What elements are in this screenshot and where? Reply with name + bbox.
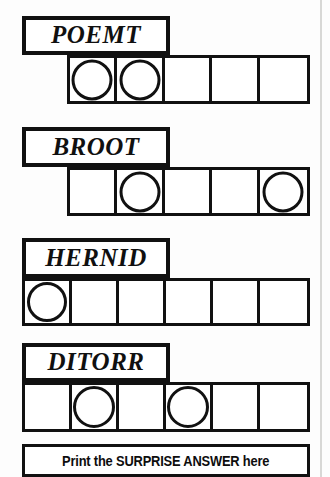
- clue-label-text: HERNID: [45, 245, 147, 270]
- surprise-answer-banner[interactable]: Print the SURPRISE ANSWER here: [22, 444, 310, 477]
- circled-cell-marker: [119, 171, 160, 212]
- clue-label: DITORR: [22, 343, 170, 382]
- answer-cell[interactable]: [213, 281, 260, 323]
- clue-label-text: POEMT: [51, 22, 141, 47]
- circled-cell-marker: [167, 386, 209, 428]
- answer-cell[interactable]: [165, 58, 212, 101]
- answer-cell[interactable]: [119, 281, 166, 323]
- answer-cell[interactable]: [70, 170, 117, 213]
- answer-cell[interactable]: [260, 281, 307, 323]
- circled-cell-marker: [263, 171, 304, 212]
- answer-cell[interactable]: [117, 58, 164, 101]
- circled-cell-marker: [72, 59, 113, 100]
- answer-grid: [22, 278, 310, 326]
- answer-cell[interactable]: [165, 170, 212, 213]
- puzzle-page: POEMTBROOTHERNIDDITORR Print the SURPRIS…: [0, 0, 330, 477]
- answer-grid: [22, 382, 310, 432]
- answer-cell[interactable]: [260, 385, 307, 429]
- answer-cell[interactable]: [72, 281, 119, 323]
- answer-cell[interactable]: [72, 385, 119, 429]
- clue-label-text: DITORR: [47, 349, 144, 374]
- clue-label-text: BROOT: [52, 134, 139, 159]
- answer-cell[interactable]: [212, 58, 259, 101]
- answer-grid: [67, 55, 310, 104]
- answer-cell[interactable]: [25, 385, 72, 429]
- answer-cell[interactable]: [260, 170, 307, 213]
- answer-grid: [67, 167, 310, 216]
- surprise-answer-banner-label: Print the SURPRISE ANSWER here: [62, 453, 269, 469]
- answer-cell[interactable]: [213, 385, 260, 429]
- circled-cell-marker: [27, 282, 67, 322]
- clue-label: POEMT: [22, 16, 170, 55]
- answer-cell[interactable]: [119, 385, 166, 429]
- answer-cell[interactable]: [212, 170, 259, 213]
- circled-cell-marker: [73, 386, 115, 428]
- clue-label: BROOT: [22, 127, 170, 167]
- answer-cell[interactable]: [25, 281, 72, 323]
- answer-cell[interactable]: [166, 281, 213, 323]
- answer-cell[interactable]: [260, 58, 307, 101]
- clue-label: HERNID: [22, 238, 170, 278]
- answer-cell[interactable]: [117, 170, 164, 213]
- page-edge-artifact: [320, 0, 322, 477]
- answer-cell[interactable]: [166, 385, 213, 429]
- answer-cell[interactable]: [70, 58, 117, 101]
- circled-cell-marker: [119, 59, 160, 100]
